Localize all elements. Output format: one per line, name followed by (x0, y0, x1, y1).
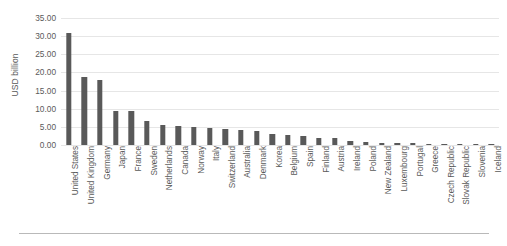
x-axis-tick-label: New Zealand (374, 146, 390, 236)
bar-slot (186, 18, 202, 145)
bar-slot (155, 18, 171, 145)
bar-slot (358, 18, 374, 145)
bar[interactable] (442, 144, 447, 145)
x-axis-tick-label: Netherlands (155, 146, 171, 236)
x-axis-tick-label: Greece (421, 146, 437, 236)
y-axis-tick-label: 35.00 (35, 14, 56, 22)
y-axis-tick-label: 20.00 (35, 68, 56, 76)
bar-slot (280, 18, 296, 145)
bar[interactable] (238, 130, 243, 145)
bars-layer (61, 18, 499, 145)
bar-slot (124, 18, 140, 145)
bar[interactable] (82, 77, 87, 145)
bar[interactable] (223, 129, 228, 145)
bar[interactable] (426, 144, 431, 145)
bar-slot (468, 18, 484, 145)
bar[interactable] (285, 135, 290, 145)
x-axis-tick-label: Norway (186, 146, 202, 236)
x-axis-tick-label: Finland (311, 146, 327, 236)
bar[interactable] (144, 121, 149, 145)
x-axis-tick-label: Germany (92, 146, 108, 236)
bar-slot (452, 18, 468, 145)
y-axis-tick-label: 30.00 (35, 32, 56, 40)
bar-slot (405, 18, 421, 145)
x-axis-tick-label: Slovenia (468, 146, 484, 236)
bar[interactable] (176, 126, 181, 145)
bar[interactable] (488, 144, 493, 145)
x-axis-tick-label: United States (61, 146, 77, 236)
x-axis-tick-label: Canada (171, 146, 187, 236)
y-axis-tick-label: 5.00 (40, 123, 56, 131)
x-axis-tick-labels: United StatesUnited KingdomGermanyJapanF… (61, 146, 499, 236)
bar-slot (264, 18, 280, 145)
bar-slot (390, 18, 406, 145)
x-axis-tick-label: Korea (264, 146, 280, 236)
bar[interactable] (410, 143, 415, 145)
bar[interactable] (207, 128, 212, 145)
bar[interactable] (160, 125, 165, 145)
bar-slot (77, 18, 93, 145)
x-axis-tick-label: Czech Republic (436, 146, 452, 236)
bar[interactable] (348, 141, 353, 145)
x-axis-tick-label-text: Iceland (495, 146, 503, 172)
bar[interactable] (191, 127, 196, 145)
y-axis-tick-labels: 0.005.0010.0015.0020.0025.0030.0035.00 (22, 0, 58, 150)
x-axis-tick-label: Portugal (405, 146, 421, 236)
bar[interactable] (129, 111, 134, 145)
bar-slot (343, 18, 359, 145)
x-axis-tick-label: Switzerland (217, 146, 233, 236)
plot-area (61, 18, 499, 145)
bar-slot (483, 18, 499, 145)
x-axis-tick-label: Japan (108, 146, 124, 236)
bar[interactable] (301, 136, 306, 145)
bar[interactable] (363, 142, 368, 145)
x-axis-tick-label: Sweden (139, 146, 155, 236)
y-axis-tick-label: 25.00 (35, 50, 56, 58)
x-axis-tick-label: Ireland (343, 146, 359, 236)
bar-slot (311, 18, 327, 145)
x-axis-tick-label: Belgium (280, 146, 296, 236)
bar[interactable] (473, 144, 478, 145)
bar-slot (171, 18, 187, 145)
y-axis-title-text: USD billion (10, 53, 20, 96)
x-axis-tick-label: Spain (296, 146, 312, 236)
bar[interactable] (316, 138, 321, 145)
x-axis-tick-label: Poland (358, 146, 374, 236)
x-axis-tick-label: Denmark (249, 146, 265, 236)
bar[interactable] (379, 143, 384, 145)
bar-slot (217, 18, 233, 145)
bar-slot (108, 18, 124, 145)
bar-slot (296, 18, 312, 145)
x-axis-tick-label: France (124, 146, 140, 236)
bar-chart: USD billion 0.005.0010.0015.0020.0025.00… (0, 0, 507, 246)
x-axis-tick-label: Luxembourg (390, 146, 406, 236)
y-axis-tick-label: 0.00 (40, 141, 56, 149)
x-axis-tick-label: Austria (327, 146, 343, 236)
bar[interactable] (254, 131, 259, 145)
bar[interactable] (332, 138, 337, 145)
bar-slot (92, 18, 108, 145)
x-axis-tick-label: Italy (202, 146, 218, 236)
bar-slot (249, 18, 265, 145)
bar[interactable] (66, 33, 71, 145)
bottom-divider (19, 233, 489, 234)
x-axis-tick-label: Iceland (483, 146, 499, 236)
y-axis-tick-label: 15.00 (35, 86, 56, 94)
y-axis-tick-label: 10.00 (35, 105, 56, 113)
x-axis-tick-label: Slovak Republic (452, 146, 468, 236)
x-axis-tick-label: Australia (233, 146, 249, 236)
bar[interactable] (457, 144, 462, 145)
bar[interactable] (113, 111, 118, 145)
bar-slot (421, 18, 437, 145)
bar-slot (327, 18, 343, 145)
bar-slot (233, 18, 249, 145)
bar[interactable] (97, 80, 102, 145)
bar-slot (139, 18, 155, 145)
bar-slot (202, 18, 218, 145)
bar-slot (436, 18, 452, 145)
bar-slot (61, 18, 77, 145)
bar[interactable] (269, 134, 274, 145)
x-axis-tick-label: United Kingdom (77, 146, 93, 236)
bar-slot (374, 18, 390, 145)
